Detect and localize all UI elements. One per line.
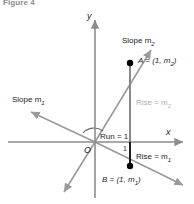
slope-m1-label: Slope m1	[12, 96, 45, 106]
rise-m2-text: Rise = m	[136, 98, 168, 107]
rise-m1-text: Rise = m	[136, 152, 168, 161]
rise-m1-label: Rise = m1	[136, 153, 171, 163]
point-b-tail: )	[138, 175, 141, 184]
slope-m1-sub: 1	[41, 100, 44, 106]
point-a-tail: )	[174, 56, 177, 65]
origin-label: O	[84, 146, 91, 155]
slope-m2-label: Slope m2	[122, 37, 155, 47]
point-a-text: A = (1, m	[138, 56, 170, 65]
slope-m2-line	[64, 50, 151, 192]
slope-m2-text: Slope m	[122, 36, 151, 45]
slope-m1-text: Slope m	[12, 95, 41, 104]
y-axis-label: y	[87, 12, 92, 21]
point-b-text: B = (1, m	[102, 175, 135, 184]
rise-m1-sub: 1	[168, 157, 171, 163]
rise-m2-sub: 2	[168, 103, 171, 109]
x-axis-label: x	[166, 128, 171, 137]
point-a-marker	[127, 60, 133, 66]
figure-container: Figure 4	[0, 0, 194, 204]
run-label: Run = 1	[100, 133, 128, 141]
rise-m2-label: Rise = m2	[136, 99, 171, 109]
point-a-label: A = (1, m2)	[138, 57, 176, 67]
point-b-marker	[127, 163, 133, 169]
point-b-label: B = (1, m1)	[102, 176, 141, 186]
tick-one-label: 1	[123, 145, 127, 152]
slope-m2-sub: 2	[151, 41, 154, 47]
